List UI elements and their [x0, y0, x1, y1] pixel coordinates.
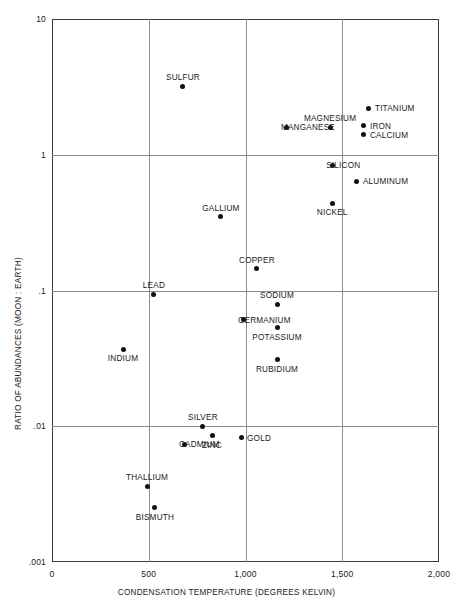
y-tick-label: 10: [36, 14, 46, 24]
x-tick-label: 2,000: [428, 569, 450, 579]
data-point-label: GALLIUM: [202, 204, 239, 213]
data-point-label: CADMIUM: [179, 440, 220, 449]
data-point-label: COPPER: [239, 256, 275, 265]
y-tick-label: .001: [29, 557, 46, 567]
x-tick-label: 0: [50, 569, 55, 579]
data-point-label: SODIUM: [260, 291, 294, 300]
data-point: [145, 484, 150, 489]
data-point-label: CALCIUM: [370, 130, 408, 139]
data-point-label: MANGANESE: [281, 123, 335, 132]
y-tick-label: 1: [41, 150, 46, 160]
data-point-label: RUBIDIUM: [256, 365, 298, 374]
data-point-label: POTASSIUM: [252, 333, 301, 342]
data-point-label: SILVER: [188, 413, 218, 422]
gridline-horizontal: [52, 291, 439, 292]
data-point: [275, 302, 280, 307]
y-tick-label: .01: [34, 421, 46, 431]
x-tick-label: 1,500: [331, 569, 353, 579]
scatter-chart: 05001,0001,5002,000 101.1.01.001 SULFURT…: [0, 0, 453, 605]
gridline-horizontal: [52, 426, 439, 427]
data-point: [275, 357, 280, 362]
x-tick-label: 1,000: [234, 569, 256, 579]
data-point-label: SILICON: [326, 161, 360, 170]
data-point-label: NICKEL: [317, 208, 348, 217]
data-point-label: THALLIUM: [126, 473, 168, 482]
x-axis-title: CONDENSATION TEMPERATURE (DEGREES KELVIN…: [0, 588, 453, 597]
data-point-label: BISMUTH: [136, 513, 174, 522]
data-point-label: GOLD: [247, 433, 271, 442]
data-point: [330, 201, 335, 206]
data-point: [210, 433, 215, 438]
data-point-label: INDIUM: [108, 354, 138, 363]
y-tick-label: .1: [39, 286, 47, 296]
data-point-label: IRON: [370, 121, 391, 130]
data-point-label: TITANIUM: [375, 104, 415, 113]
x-tick-label: 500: [141, 569, 156, 579]
data-point-label: GERMANIUM: [238, 315, 291, 324]
data-point: [121, 347, 126, 352]
data-point-label: LEAD: [143, 281, 165, 290]
y-axis-title: RATIO OF ABUNDANCES (MOON : EARTH): [14, 257, 23, 430]
data-point-label: SULFUR: [166, 73, 200, 82]
gridline-horizontal: [52, 155, 439, 156]
data-point-label: ALUMINUM: [363, 177, 408, 186]
